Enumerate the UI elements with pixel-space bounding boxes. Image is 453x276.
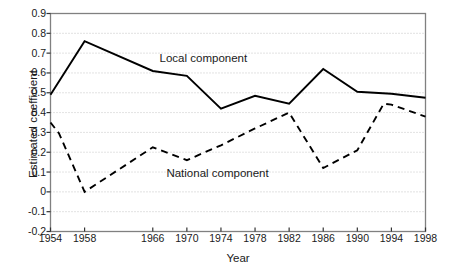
chart-figure: Estimated coefficient 0.90.80.70.60.50.4…	[0, 0, 453, 276]
series-annotation-national-component: National component	[166, 167, 269, 179]
x-axis-tick-labels: 1954195819661970197419781982198619901994…	[0, 233, 453, 253]
x-axis-tick-label: 1998	[406, 233, 446, 244]
x-axis-label: Year	[50, 252, 426, 264]
series-annotation-local-component: Local component	[160, 52, 248, 64]
plot-frame	[51, 14, 426, 232]
x-axis-tick-label: 1958	[65, 233, 105, 244]
